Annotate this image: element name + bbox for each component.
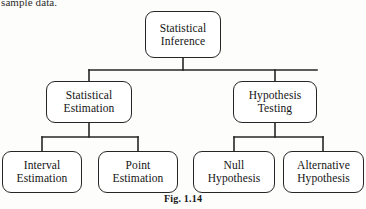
node-null-hypothesis-line1: Null xyxy=(196,159,272,172)
node-null-hypothesis-line2: Hypothesis xyxy=(196,172,272,185)
node-alternative-hypothesis: Alternative Hypothesis xyxy=(283,151,364,193)
node-interval-estimation-line1: Interval xyxy=(5,159,79,172)
node-statistical-inference-line2: Inference xyxy=(148,35,218,48)
node-interval-estimation: Interval Estimation xyxy=(2,151,82,193)
node-point-estimation-line2: Estimation xyxy=(101,172,175,185)
figure-caption: Fig. 1.14 xyxy=(0,193,366,204)
node-alternative-hypothesis-line2: Hypothesis xyxy=(286,172,361,185)
node-statistical-estimation-line1: Statistical xyxy=(49,89,129,102)
node-statistical-estimation-line2: Estimation xyxy=(49,102,129,115)
node-hypothesis-testing-line1: Hypothesis xyxy=(236,89,314,102)
node-null-hypothesis: Null Hypothesis xyxy=(193,151,275,193)
node-hypothesis-testing: Hypothesis Testing xyxy=(233,81,317,123)
node-statistical-inference: Statistical Inference xyxy=(145,11,221,58)
node-alternative-hypothesis-line1: Alternative xyxy=(286,159,361,172)
node-point-estimation-line1: Point xyxy=(101,159,175,172)
node-statistical-inference-line1: Statistical xyxy=(148,22,218,35)
node-statistical-estimation: Statistical Estimation xyxy=(46,81,132,123)
node-point-estimation: Point Estimation xyxy=(98,151,178,193)
node-interval-estimation-line2: Estimation xyxy=(5,172,79,185)
node-hypothesis-testing-line2: Testing xyxy=(236,102,314,115)
